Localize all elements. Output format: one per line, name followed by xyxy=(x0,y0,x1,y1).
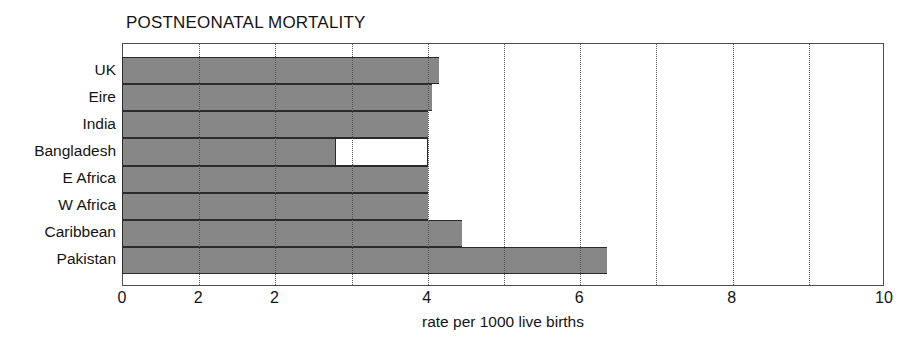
category-label-bangladesh: Bangladesh xyxy=(34,143,116,159)
bar[interactable] xyxy=(122,84,432,111)
bar-fill xyxy=(123,112,428,137)
x-tick-label: 8 xyxy=(727,290,736,306)
bar-fill xyxy=(123,85,432,110)
x-tick-label: 2 xyxy=(194,290,203,306)
bar[interactable] xyxy=(122,247,607,274)
bar-fill xyxy=(123,167,428,192)
category-label-w-africa: W Africa xyxy=(58,197,116,213)
category-label-e-africa: E Africa xyxy=(63,170,116,186)
category-label-pakistan: Pakistan xyxy=(57,251,116,267)
bar[interactable] xyxy=(122,138,428,165)
category-label-eire: Eire xyxy=(88,89,116,105)
category-label-uk: UK xyxy=(94,62,116,78)
bar-fill xyxy=(123,221,462,246)
bar-band xyxy=(123,166,883,193)
bar-fill xyxy=(123,248,607,273)
x-axis-title: rate per 1000 live births xyxy=(122,313,884,331)
bar[interactable] xyxy=(122,220,462,247)
category-label-caribbean: Caribbean xyxy=(44,224,116,240)
bar-fill xyxy=(123,139,336,164)
x-tick-label: 2 xyxy=(270,290,279,306)
bar-band xyxy=(123,193,883,220)
bar-band xyxy=(123,57,883,84)
bar-band xyxy=(123,138,883,165)
x-axis-tick-labels: 02246810 xyxy=(0,290,907,314)
category-axis-labels: UKEireIndiaBangladeshE AfricaW AfricaCar… xyxy=(0,43,116,286)
bar[interactable] xyxy=(122,166,428,193)
x-tick-label: 0 xyxy=(118,290,127,306)
bar-fill xyxy=(123,58,439,83)
bar[interactable] xyxy=(122,193,428,220)
bar-band xyxy=(123,247,883,274)
bar-fill xyxy=(123,194,428,219)
bar-band xyxy=(123,84,883,111)
bar[interactable] xyxy=(122,57,439,84)
x-tick-label: 10 xyxy=(875,290,893,306)
category-label-india: India xyxy=(82,116,116,132)
bar-band xyxy=(123,220,883,247)
postneonatal-mortality-bar-chart: POSTNEONATAL MORTALITY UKEireIndiaBangla… xyxy=(0,0,907,344)
x-tick-label: 4 xyxy=(422,290,431,306)
chart-title: POSTNEONATAL MORTALITY xyxy=(126,13,366,33)
bar-band xyxy=(123,111,883,138)
plot-area xyxy=(122,43,884,286)
x-tick-label: 6 xyxy=(575,290,584,306)
bar[interactable] xyxy=(122,111,428,138)
bars-layer xyxy=(123,44,883,285)
